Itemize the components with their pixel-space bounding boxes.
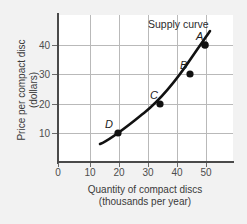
gridline-y-40 [58,45,233,46]
y-axis-line [57,13,59,164]
point-label-b: B [180,60,187,71]
x-tick-label-30: 30 [136,167,160,179]
point-label-c: C [150,90,158,101]
y-axis-title-line1: Price per compact disc [16,39,27,140]
gridline-y-10 [58,133,233,134]
supply-curve-label: Supply curve [148,18,209,30]
gridline-x-10 [90,15,91,162]
gridline-y-20 [58,104,233,105]
x-tick-label-0: 0 [46,167,70,179]
gridline-y-30 [58,74,233,75]
x-tick-label-20: 20 [107,167,131,179]
y-tick-40 [52,45,57,46]
x-axis-line [57,161,234,163]
x-tick-label-50: 50 [194,167,218,179]
gridline-x-40 [177,15,178,162]
x-tick-label-40: 40 [165,167,189,179]
point-label-d: D [105,119,113,130]
y-tick-10 [52,133,57,134]
x-tick-label-10: 10 [78,167,102,179]
point-label-a: A [196,31,203,42]
x-axis-title: Quantity of compact discs (thousands per… [47,184,243,208]
gridline-x-20 [119,15,120,162]
gridline-x-30 [148,15,149,162]
y-tick-20 [52,104,57,105]
y-tick-30 [52,74,57,75]
x-axis-title-line2: (thousands per year) [47,196,243,208]
y-axis-title-line2: (dollars) [28,20,40,160]
supply-curve-figure: 0 10 20 30 40 50 40 30 20 10 Quantity of… [0,0,247,224]
gridline-x-50 [206,15,207,162]
plot-area [58,15,233,162]
x-axis-title-line1: Quantity of compact discs [88,184,203,195]
y-axis-title: Price per compact disc (dollars) [16,20,40,160]
